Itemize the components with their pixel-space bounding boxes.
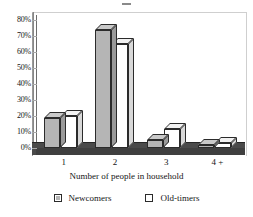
bar-side-face [111, 24, 117, 148]
x-axis-title: Number of people in household [0, 171, 253, 181]
bar-side-face [60, 112, 66, 148]
legend-item-old-timers: Old-timers [145, 193, 199, 203]
chart-legend: Newcomers Old-timers [0, 193, 253, 203]
bar-face [44, 118, 60, 148]
legend-swatch-newcomers [54, 194, 62, 202]
bar-newcomers-2 [95, 30, 111, 148]
legend-swatch-old-timers [145, 194, 153, 202]
bar-face [147, 140, 163, 148]
legend-label-old-timers: Old-timers [160, 193, 199, 203]
legend-item-newcomers: Newcomers [54, 193, 112, 203]
bar-chart-figure: 0%10%20%30%40%50%60%70%80% 1234 + Number… [0, 0, 253, 217]
legend-label-newcomers: Newcomers [69, 193, 112, 203]
bar-newcomers-3 [147, 140, 163, 148]
x-axis-tick-label: 3 [144, 157, 188, 167]
bar-face [95, 30, 111, 148]
x-axis-tick-label: 2 [93, 157, 137, 167]
bar-face [198, 145, 214, 148]
bar-side-face [128, 38, 134, 148]
bar-newcomers-4 [198, 145, 214, 148]
x-axis-tick-label: 1 [42, 157, 86, 167]
bar-newcomers-1 [44, 118, 60, 148]
x-axis-tick-label: 4 + [195, 157, 239, 167]
bar-side-face [77, 110, 83, 148]
bar-series-layer [0, 0, 253, 217]
